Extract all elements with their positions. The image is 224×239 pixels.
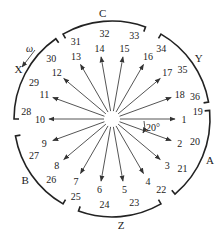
rotation-annotation: ω <box>22 43 35 67</box>
outer-slot-label: 31 <box>71 36 81 47</box>
arrow-label: 15 <box>120 43 130 54</box>
phasor-arrow <box>53 122 105 141</box>
arrow-label: 8 <box>54 160 59 171</box>
phase-belt-label: X <box>14 63 22 75</box>
outer-slot-label: 20 <box>190 136 200 147</box>
rotation-label: ω <box>26 43 33 54</box>
outer-slot-label: 29 <box>29 77 39 88</box>
phase-belt-label: Y <box>195 52 203 64</box>
arrow-label: 7 <box>74 176 79 187</box>
arrow-label: 4 <box>146 176 151 187</box>
outer-slot-label: 23 <box>129 197 139 208</box>
phase-belt-arc <box>78 200 161 217</box>
arrow-label: 14 <box>94 43 104 54</box>
diagram-canvas: 1234567891011121314151617181920212223242… <box>0 0 224 239</box>
arrow-label: 12 <box>52 67 62 78</box>
outer-slot-label: 35 <box>177 64 187 75</box>
phase-belt-label: B <box>21 174 28 186</box>
arrow-label: 1 <box>182 114 187 125</box>
phase-belt-arc <box>172 110 210 194</box>
phasor-arrow <box>64 79 106 114</box>
arrow-label: 18 <box>175 89 185 100</box>
arrow-label: 11 <box>40 89 50 100</box>
arrow-label: 16 <box>143 51 153 62</box>
arrow-label: 13 <box>71 51 81 62</box>
phasor-arrows <box>49 57 175 181</box>
outer-slot-label: 19 <box>193 106 203 117</box>
slot-angle-label: 20° <box>146 122 160 133</box>
outer-slot-label: 21 <box>177 163 187 174</box>
phasor-arrow <box>53 97 105 116</box>
star-diagram: 1234567891011121314151617181920212223242… <box>0 0 224 239</box>
slot-angle-annotation: 20° <box>143 121 160 133</box>
arrow-label: 5 <box>122 184 127 195</box>
outer-slot-label: 32 <box>100 28 110 39</box>
outer-slot-label: 22 <box>156 184 166 195</box>
outer-slot-label: 30 <box>46 53 56 64</box>
phasor-arrow <box>120 97 172 116</box>
phasor-arrow <box>64 124 106 159</box>
outer-slot-label: 26 <box>46 174 56 185</box>
arrow-label: 2 <box>177 138 182 149</box>
outer-slot-label: 33 <box>129 30 139 41</box>
arrow-label: 9 <box>42 138 47 149</box>
outer-slot-label: 28 <box>21 106 31 117</box>
outer-slot-label: 27 <box>29 150 39 161</box>
arrow-label: 6 <box>97 184 102 195</box>
outer-slot-label: 24 <box>100 199 110 210</box>
phase-belt-label: C <box>99 7 106 19</box>
phase-belt-label: Z <box>118 219 125 231</box>
outer-slot-label: 36 <box>190 91 200 102</box>
outer-slot-label: 34 <box>156 43 166 54</box>
labels: 1234567891011121314151617181920212223242… <box>14 7 214 230</box>
arrow-label: 3 <box>165 160 170 171</box>
outer-slot-label: 25 <box>71 191 81 202</box>
phase-belt-label: A <box>206 154 214 166</box>
arrow-label: 10 <box>35 114 45 125</box>
phasor-arrow <box>118 79 160 114</box>
arrow-label: 17 <box>162 67 172 78</box>
